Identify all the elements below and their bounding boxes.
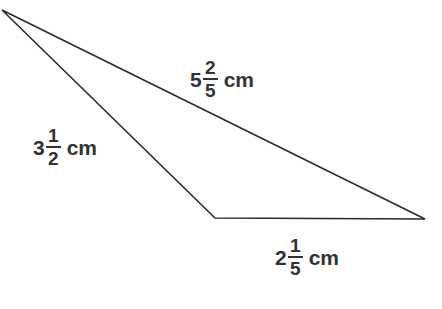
whole-part-top: 5 <box>190 69 202 90</box>
numerator-top: 2 <box>203 58 218 77</box>
unit-label-top: cm <box>224 69 254 90</box>
unit-label-left: cm <box>67 137 97 158</box>
side-label-left: 3 1 2 cm <box>33 126 97 169</box>
numerator-left: 1 <box>46 126 61 145</box>
geometry-figure: 5 2 5 cm 3 1 2 cm 2 1 5 <box>0 0 442 309</box>
mixed-number-top: 5 2 5 <box>190 58 218 101</box>
denominator-bottom: 5 <box>288 259 303 278</box>
triangle-outline <box>2 10 425 219</box>
whole-part-left: 3 <box>33 137 45 158</box>
fraction-bottom: 1 5 <box>288 236 303 279</box>
side-label-top: 5 2 5 cm <box>190 58 254 101</box>
denominator-left: 2 <box>46 149 61 168</box>
side-label-bottom: 2 1 5 cm <box>275 236 339 279</box>
denominator-top: 5 <box>203 81 218 100</box>
fraction-top: 2 5 <box>203 58 218 101</box>
mixed-number-bottom: 2 1 5 <box>275 236 303 279</box>
numerator-bottom: 1 <box>288 236 303 255</box>
unit-label-bottom: cm <box>309 247 339 268</box>
fraction-left: 1 2 <box>46 126 61 169</box>
mixed-number-left: 3 1 2 <box>33 126 61 169</box>
whole-part-bottom: 2 <box>275 247 287 268</box>
